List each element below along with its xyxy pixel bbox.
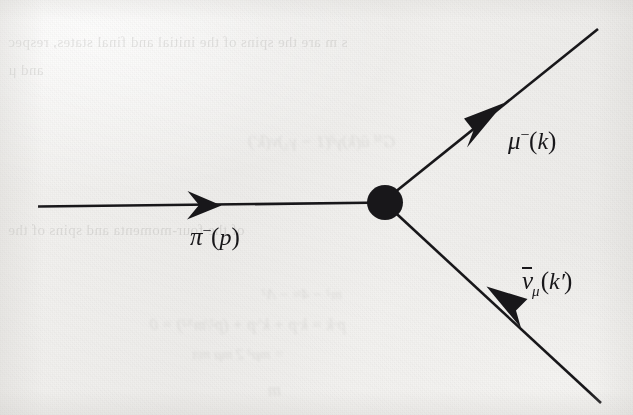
antineutrino-momentum: k: [549, 268, 560, 294]
muon-symbol: μ: [508, 127, 521, 154]
pion-charge: −: [203, 222, 212, 239]
antineutrino-paren-open: (: [541, 267, 549, 294]
interaction-vertex: [367, 185, 403, 220]
muon-charge: −: [521, 126, 530, 143]
muon-paren-close: ): [548, 127, 556, 154]
pion-paren-close: ): [231, 223, 239, 250]
antineutrino-line: [386, 204, 601, 403]
antiparticle-overbar-icon: [522, 267, 532, 269]
pion-momentum: p: [219, 224, 231, 250]
muon-momentum: k: [537, 128, 548, 154]
muon-arrowhead-icon: [464, 103, 504, 148]
antineutrino-paren-close: ): [564, 267, 572, 294]
pion-symbol: π: [190, 223, 203, 250]
antineutrino-flavour-subscript: μ: [532, 283, 540, 299]
feynman-diagram: [0, 0, 633, 415]
figure-canvas: s m are the spins of the initial and fin…: [0, 0, 633, 415]
muon-label: μ−(k): [508, 128, 556, 153]
antineutrino-label: νμ(k′): [522, 268, 572, 293]
pion-label: π−(p): [190, 224, 240, 249]
